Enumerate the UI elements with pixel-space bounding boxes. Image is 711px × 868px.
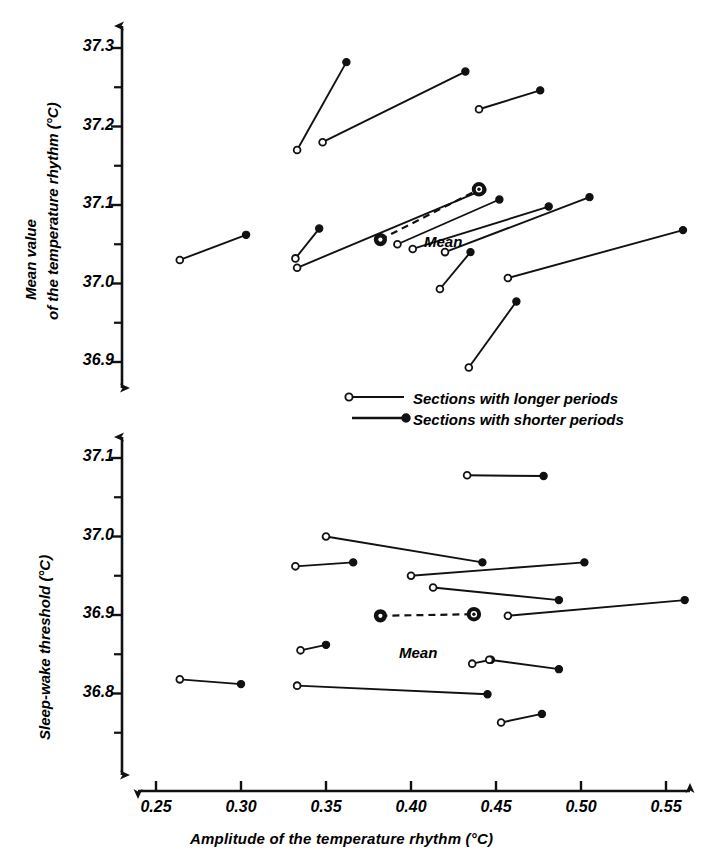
top-panel-y-tick-37.0: 37.0	[56, 273, 114, 291]
legend-layer	[345, 393, 410, 422]
data-segment	[176, 231, 249, 263]
x-axis-label: Amplitude of the temperature rhythm (°C)	[190, 830, 493, 847]
data-segment	[297, 641, 330, 653]
bottom-panel-y-axis-label: Sleep-wake threshold (°C)	[36, 555, 53, 740]
data-segment	[292, 559, 357, 570]
data-segment	[319, 68, 469, 146]
data-segment	[176, 676, 244, 688]
mean-segment	[375, 608, 480, 621]
top-panel-y-axis-label-line1: Mean value	[22, 219, 39, 300]
top-panel-y-axis-label: Mean value	[22, 219, 39, 300]
legend-filled-circle-icon	[402, 414, 410, 422]
top-panel-y-tick-37.2: 37.2	[56, 116, 114, 134]
bottom-panel-y-axis-label-text: Sleep-wake threshold (°C)	[36, 555, 53, 740]
data-segment	[476, 87, 544, 113]
top-panel-y-tick-37.1: 37.1	[56, 194, 114, 212]
top-panel-mean-label: Mean	[424, 233, 462, 250]
bottom-panel-y-tick-36.8: 36.8	[56, 683, 114, 701]
bottom-panel-mean-label: Mean	[399, 644, 437, 661]
x-tick-0.50: 0.50	[546, 798, 616, 816]
data-segment	[408, 559, 588, 579]
data-segment	[505, 227, 687, 282]
legend-item-longer-periods: Sections with longer periods	[413, 390, 618, 407]
x-axis	[138, 781, 690, 791]
figure-root: Mean value of the temperature rhythm (°C…	[0, 0, 711, 868]
legend-open-circle-icon	[345, 393, 352, 400]
legend-item-shorter-periods: Sections with shorter periods	[413, 411, 624, 428]
axes-layer	[111, 26, 690, 791]
x-tick-0.45: 0.45	[461, 798, 531, 816]
data-layer-top-panel	[176, 59, 686, 371]
x-tick-0.35: 0.35	[291, 798, 361, 816]
x-tick-0.55: 0.55	[631, 798, 701, 816]
data-segment	[486, 656, 563, 672]
x-tick-0.40: 0.40	[376, 798, 446, 816]
x-tick-0.30: 0.30	[206, 798, 276, 816]
x-tick-0.25: 0.25	[121, 798, 191, 816]
data-segment	[442, 194, 594, 256]
bottom-panel-y-tick-36.9: 36.9	[56, 604, 114, 622]
data-segment	[430, 584, 563, 604]
data-segment	[292, 225, 323, 262]
data-segment	[464, 472, 548, 480]
data-segment	[498, 710, 546, 726]
bottom-panel-y-tick-37.0: 37.0	[56, 526, 114, 544]
bottom-panel-y-tick-37.1: 37.1	[56, 447, 114, 465]
data-segment	[505, 596, 689, 619]
data-segment	[465, 298, 520, 371]
top-panel-y-tick-37.3: 37.3	[56, 37, 114, 55]
data-segment	[294, 682, 491, 698]
top-panel-y-tick-36.9: 36.9	[56, 351, 114, 369]
data-layer-bottom-panel	[176, 472, 688, 726]
data-segment	[323, 533, 486, 566]
